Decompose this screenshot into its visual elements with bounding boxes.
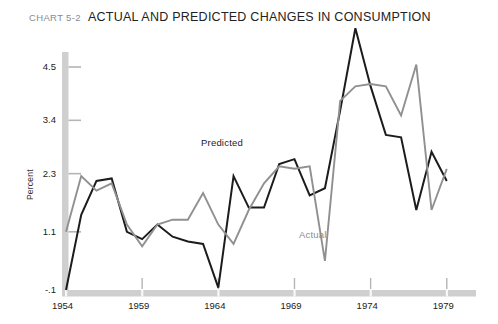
x-axis-bar-break: [293, 290, 295, 297]
x-tick-label: 1974: [357, 300, 378, 311]
y-tick-label: 1.1: [28, 226, 56, 237]
x-tick-label: 1954: [52, 300, 73, 311]
series-label-predicted: Predicted: [201, 137, 243, 148]
y-tick-label: -.1: [28, 284, 56, 295]
y-tick-label: 4.5: [28, 61, 56, 72]
x-axis-bar-break: [370, 290, 372, 297]
series-line-actual: [66, 65, 447, 261]
line-chart-canvas: [0, 0, 498, 324]
x-axis-bar-break: [141, 290, 143, 297]
plot-area: Percent Predicted Actual 4.53.42.31.1-.1…: [0, 0, 498, 324]
y-tick-label: 2.3: [28, 168, 56, 179]
x-tick-label: 1979: [433, 300, 454, 311]
x-axis-bar-break: [446, 290, 448, 297]
y-tick-label: 3.4: [28, 114, 56, 125]
y-axis-bar: [62, 52, 69, 295]
chart-figure: CHART 5-2 ACTUAL AND PREDICTED CHANGES I…: [0, 0, 498, 324]
x-axis-bar: [62, 290, 476, 297]
x-axis-bar-break: [65, 290, 67, 297]
x-tick-label: 1964: [204, 300, 225, 311]
x-tick-label: 1969: [280, 300, 301, 311]
series-line-predicted: [66, 28, 447, 290]
x-axis-bar-break: [217, 290, 219, 297]
x-tick-label: 1959: [128, 300, 149, 311]
series-label-actual: Actual: [299, 229, 327, 240]
